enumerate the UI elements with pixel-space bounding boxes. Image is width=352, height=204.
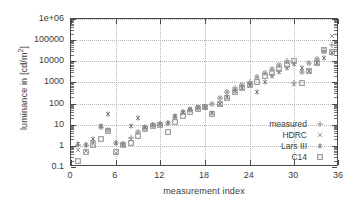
x-axis-tick-major	[294, 19, 295, 24]
y-axis-tick-major	[71, 146, 76, 147]
y-axis-tick-minor	[334, 149, 337, 150]
y-axis-tick-major	[71, 125, 76, 126]
y-axis-tick-minor	[334, 107, 337, 108]
y-axis-tick-minor	[334, 21, 337, 22]
y-axis-tick-minor	[71, 66, 74, 67]
y-axis-tick-minor	[71, 91, 74, 92]
y-axis-tick-minor	[334, 72, 337, 73]
y-axis-tick-minor	[71, 84, 74, 85]
y-axis-tick-minor	[334, 139, 337, 140]
y-axis-tick-minor	[71, 157, 74, 158]
y-axis-tick-minor	[334, 127, 337, 128]
legend-marker-square-icon	[307, 151, 333, 162]
y-axis-tick-minor	[71, 129, 74, 130]
y-axis-tick-label: 10	[54, 119, 64, 129]
legend-item-c14[interactable]: C14	[221, 151, 333, 162]
y-axis-tick-minor	[71, 115, 74, 116]
y-axis-tick-minor	[334, 47, 337, 48]
y-axis-tick-minor	[71, 149, 74, 150]
y-axis-tick-minor	[71, 128, 74, 129]
y-axis-tick-minor	[334, 112, 337, 113]
x-axis-tick-major	[71, 19, 72, 24]
y-axis-tick-minor	[334, 147, 337, 148]
y-axis-tick-minor	[71, 70, 74, 71]
y-axis-tick-minor	[334, 87, 337, 88]
legend-item-lars-iii[interactable]: Lars III	[221, 140, 333, 151]
y-axis-tick-label: 1	[59, 140, 64, 150]
y-axis-tick-label: 1e+06	[39, 13, 64, 23]
y-axis-tick-minor	[334, 76, 337, 77]
legend-item-hdrc[interactable]: HDRC	[221, 129, 333, 140]
y-axis-tick-minor	[71, 147, 74, 148]
y-axis-tick-minor	[334, 83, 337, 84]
y-axis-tick-minor	[71, 42, 74, 43]
y-axis-tick-minor	[71, 87, 74, 88]
plot-area: measuredHDRCLars IIIC14	[70, 18, 338, 166]
y-axis-tick-minor	[71, 108, 74, 109]
y-axis-tick-minor	[334, 118, 337, 119]
y-axis-tick-minor	[334, 136, 337, 137]
y-axis-tick-minor	[334, 65, 337, 66]
gridline-vertical	[116, 19, 117, 165]
y-axis-tick-minor	[334, 45, 337, 46]
y-axis-tick-minor	[71, 30, 74, 31]
y-axis-tick-minor	[71, 43, 74, 44]
y-axis-tick-minor	[334, 24, 337, 25]
x-axis-tick-label: 24	[244, 170, 254, 180]
y-axis-tick-minor	[334, 43, 337, 44]
y-axis-tick-minor	[71, 131, 74, 132]
y-axis-tick-minor	[334, 93, 337, 94]
x-axis-tick-label: 36	[333, 170, 343, 180]
y-axis-tick-minor	[334, 151, 337, 152]
y-axis-tick-minor	[334, 108, 337, 109]
x-axis-tick-label: 0	[67, 170, 72, 180]
y-axis-tick-minor	[334, 70, 337, 71]
legend-marker-plus-icon	[307, 118, 333, 129]
gridline-vertical	[205, 19, 206, 165]
legend-label: measured	[269, 119, 307, 129]
y-axis-tick-minor	[334, 89, 337, 90]
y-axis-title-exponent: 2	[17, 49, 24, 53]
y-axis-tick-minor	[334, 27, 337, 28]
x-axis-tick-major	[205, 19, 206, 24]
y-axis-tick-minor	[71, 45, 74, 46]
y-axis-tick-minor	[71, 34, 74, 35]
y-axis-tick-minor	[71, 62, 74, 63]
y-axis-tick-minor	[334, 84, 337, 85]
y-axis-tick-minor	[334, 105, 337, 106]
chart-legend: measuredHDRCLars IIIC14	[221, 118, 333, 162]
y-axis-tick-minor	[71, 154, 74, 155]
y-axis-tick-minor	[334, 152, 337, 153]
y-axis-tick-minor	[71, 68, 74, 69]
y-axis-tick-minor	[334, 25, 337, 26]
y-axis-tick-minor	[334, 68, 337, 69]
x-axis-tick-major	[205, 160, 206, 165]
legend-item-measured[interactable]: measured	[221, 118, 333, 129]
y-axis-tick-minor	[71, 151, 74, 152]
y-axis-tick-minor	[334, 62, 337, 63]
y-axis-tick-minor	[71, 25, 74, 26]
y-axis-tick-minor	[334, 97, 337, 98]
y-axis-title-suffix: ]	[19, 46, 29, 49]
y-axis-tick-minor	[334, 110, 337, 111]
x-axis-tick-label: 12	[154, 170, 164, 180]
y-axis-tick-minor	[71, 86, 74, 87]
x-axis-tick-major	[116, 160, 117, 165]
y-axis-tick-minor	[71, 107, 74, 108]
y-axis-tick-major	[332, 82, 337, 83]
y-axis-tick-minor	[334, 34, 337, 35]
y-axis-tick-minor	[334, 30, 337, 31]
y-axis-tick-minor	[334, 91, 337, 92]
y-axis-tick-major	[332, 40, 337, 41]
y-axis-tick-minor	[334, 51, 337, 52]
y-axis-tick-minor	[334, 129, 337, 130]
x-axis-tick-major	[338, 160, 339, 165]
y-axis-tick-minor	[71, 136, 74, 137]
gridline-horizontal	[71, 19, 337, 20]
x-axis-tick-label: 18	[199, 170, 209, 180]
y-axis-tick-minor	[71, 49, 74, 50]
y-axis-tick-minor	[334, 63, 337, 64]
y-axis-title: luminance in [cd/m2]	[17, 13, 29, 163]
y-axis-tick-minor	[71, 72, 74, 73]
x-axis-tick-label: 30	[288, 170, 298, 180]
